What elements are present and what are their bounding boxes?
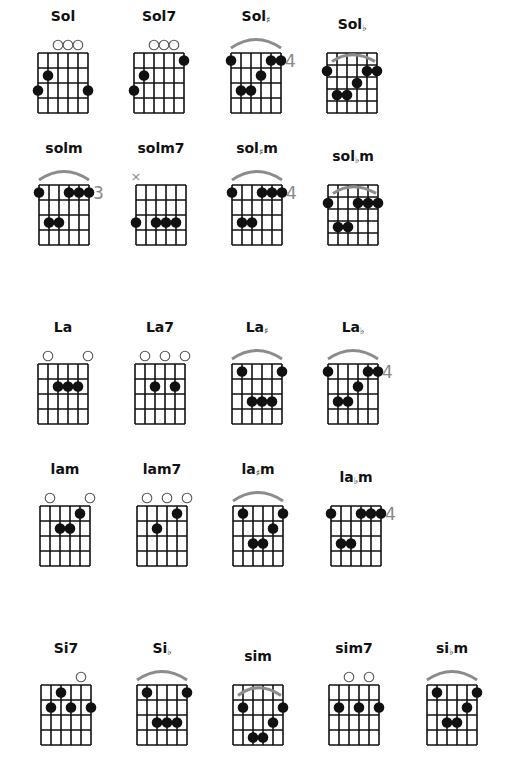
- finger-dot-icon: [442, 717, 453, 728]
- chord-chart: SolSol74Sol♯Sol♭3solm×solm74sol♯msol♭mLa…: [0, 0, 505, 782]
- finger-dot-icon: [452, 717, 463, 728]
- finger-dot-icon: [462, 702, 473, 713]
- chord-name: si♭m: [436, 640, 468, 657]
- barre-arc-icon: [427, 672, 477, 681]
- finger-dot-icon: [432, 687, 443, 698]
- finger-dot-icon: [472, 687, 483, 698]
- chord-diagram: [0, 0, 505, 782]
